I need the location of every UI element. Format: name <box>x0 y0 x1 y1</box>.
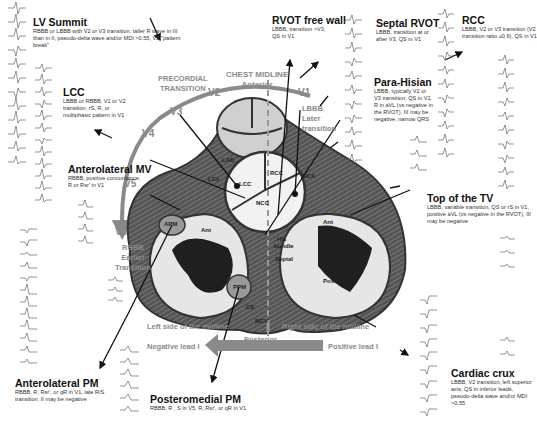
ecg-strip-crux-right <box>500 337 515 355</box>
ecg-strip-para-hisian <box>345 15 362 177</box>
ecg-strip-lcc <box>35 64 52 202</box>
ecg-strip-anterolateral-pm <box>20 229 37 363</box>
ecg-strip-tv-right <box>500 236 515 267</box>
ecg-strip-anterolateral-mv <box>78 200 93 243</box>
ecg-strip-rbbb <box>108 277 123 301</box>
ecg-strip-posteromedial-pm <box>120 346 139 411</box>
ecg-strip-top-of-tv <box>410 136 427 170</box>
ecg-strip-rvot <box>438 9 454 157</box>
ecg-strip-cardiac-crux <box>420 296 437 416</box>
ecg-strip-lv-summit <box>8 2 26 164</box>
ecg-strip-rcc <box>498 55 514 189</box>
